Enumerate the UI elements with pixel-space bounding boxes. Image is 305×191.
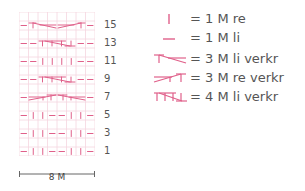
row-number-1: 1	[104, 146, 110, 156]
legend-label: = 3 M re verkr	[190, 70, 284, 86]
legend-item-3m-right-cross: = 3 M re verkr	[152, 70, 302, 86]
legend-item-knit: = 1 M re	[152, 11, 302, 27]
legend-label: = 1 M li	[190, 30, 240, 46]
chart-grid	[19, 12, 95, 156]
3m-left-cross-icon	[152, 51, 188, 67]
row-number-15: 15	[104, 20, 117, 30]
row-number-13: 13	[104, 38, 117, 48]
row-number-5: 5	[104, 110, 110, 120]
knitting-chart	[19, 12, 95, 156]
3m-right-cross-icon	[152, 70, 188, 86]
legend-item-purl: = 1 M li	[152, 30, 302, 46]
purl-stitch-icon	[152, 30, 186, 46]
scale-label: 8 M	[19, 172, 95, 182]
legend-item-4m-left-cross: = 4 M li verkr	[152, 89, 302, 105]
legend-label: = 4 M li verkr	[190, 89, 278, 105]
legend-label: = 1 M re	[190, 11, 246, 27]
row-number-9: 9	[104, 74, 110, 84]
row-number-11: 11	[104, 56, 117, 66]
legend-label: = 3 M li verkr	[190, 51, 278, 67]
width-scale-bar	[19, 163, 95, 169]
row-number-3: 3	[104, 128, 110, 138]
row-number-7: 7	[104, 92, 110, 102]
legend-item-3m-left-cross: = 3 M li verkr	[152, 51, 302, 67]
knit-stitch-icon	[152, 11, 186, 27]
4m-left-cross-icon	[152, 89, 188, 105]
